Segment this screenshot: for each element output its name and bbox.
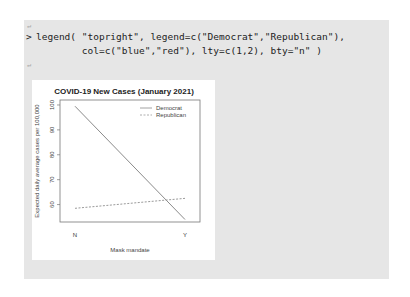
- series-line-democrat: [75, 106, 185, 219]
- legend-label: Democrat: [156, 105, 182, 111]
- x-tick-label: Y: [183, 232, 187, 238]
- code-line-1: legend( "topright", legend=c("Democrat",…: [36, 31, 345, 42]
- paragraph-mark: ↵: [27, 61, 31, 69]
- series-lines: [75, 106, 185, 219]
- plot-frame: [60, 100, 200, 222]
- series-line-republican: [75, 198, 185, 208]
- y-tick-label: 90: [49, 126, 55, 133]
- y-axis-label: Expected daily average cases per 100,000: [34, 104, 40, 218]
- plot-image: COVID-19 New Cases (January 2021) 607080…: [32, 80, 215, 260]
- y-tick-label: 70: [49, 176, 55, 183]
- x-axis: NY: [73, 232, 187, 238]
- x-tick-label: N: [73, 232, 77, 238]
- legend: DemocratRepublican: [140, 105, 186, 118]
- x-axis-label: Mask mandate: [110, 247, 150, 253]
- y-tick-label: 80: [49, 151, 55, 158]
- r-console: ↵ > legend( "topright", legend=c("Democr…: [24, 20, 389, 279]
- y-tick-label: 100: [49, 99, 55, 110]
- paragraph-mark: ↵: [27, 22, 31, 30]
- code-line-2: col=c("blue","red"), lty=c(1,2), bty="n"…: [36, 45, 322, 56]
- y-axis: 60708090100: [49, 99, 60, 208]
- line-chart: COVID-19 New Cases (January 2021) 607080…: [32, 80, 215, 260]
- y-tick-label: 60: [49, 201, 55, 208]
- chart-title: COVID-19 New Cases (January 2021): [54, 87, 194, 96]
- prompt-symbol: >: [26, 31, 32, 42]
- legend-label: Republican: [156, 112, 186, 118]
